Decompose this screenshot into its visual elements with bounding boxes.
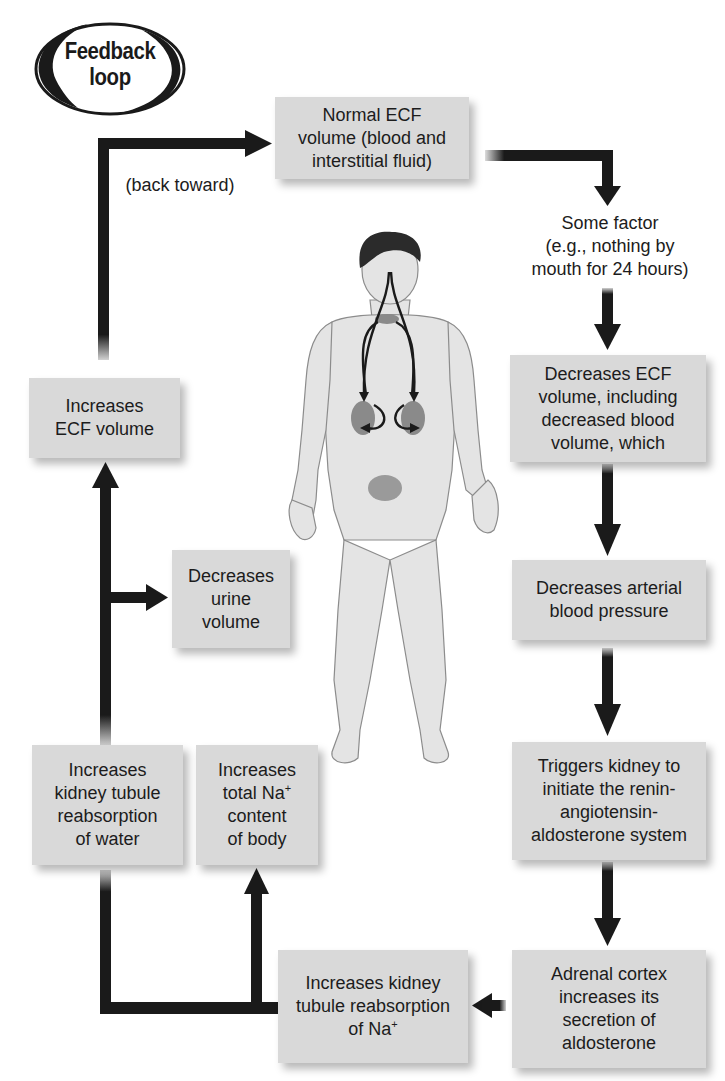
node-text: Decreases ECF volume, including decrease… (538, 363, 677, 455)
node-increases-total-na: Increases total Na+ content of body (196, 745, 318, 865)
node-triggers-raas: Triggers kidney to initiate the renin- a… (512, 742, 706, 860)
node-decreases-urine-volume: Decreases urine volume (172, 550, 290, 648)
node-decreases-ecf-volume: Decreases ECF volume, including decrease… (510, 355, 706, 462)
node-text: Increases kidney tubule reabsorption of … (54, 759, 160, 851)
node-increases-water-reabsorption: Increases kidney tubule reabsorption of … (32, 745, 183, 865)
node-normal-ecf-volume: Normal ECF volume (blood and interstitia… (275, 97, 469, 179)
node-text: Triggers kidney to initiate the renin- a… (531, 755, 687, 847)
node-text: Decreases arterial blood pressure (536, 577, 682, 623)
node-decreases-arterial-bp: Decreases arterial blood pressure (512, 560, 706, 640)
node-text: Increases ECF volume (55, 395, 154, 441)
node-text-line: of Na (348, 1019, 391, 1039)
node-adrenal-cortex: Adrenal cortex increases its secretion o… (512, 950, 706, 1068)
node-text-line: total Na (223, 783, 285, 803)
node-text: Normal ECF volume (blood and interstitia… (298, 104, 446, 173)
node-text-line: of body (227, 829, 286, 849)
node-text-line: content (227, 806, 286, 826)
superscript-plus: + (391, 1018, 397, 1030)
node-some-factor: Some factor (e.g., nothing by mouth for … (510, 212, 710, 281)
label-back-toward: (back toward) (118, 174, 242, 197)
node-text-line: tubule reabsorption (296, 996, 450, 1016)
node-increases-ecf-volume: Increases ECF volume (29, 378, 180, 458)
node-increases-na-reabsorption: Increases kidney tubule reabsorption of … (278, 950, 468, 1063)
node-text-line: Increases kidney (305, 973, 440, 993)
node-text-line: Increases (218, 760, 296, 780)
node-text: Decreases urine volume (188, 565, 274, 634)
superscript-plus: + (285, 782, 291, 794)
node-text: Adrenal cortex increases its secretion o… (551, 963, 667, 1055)
